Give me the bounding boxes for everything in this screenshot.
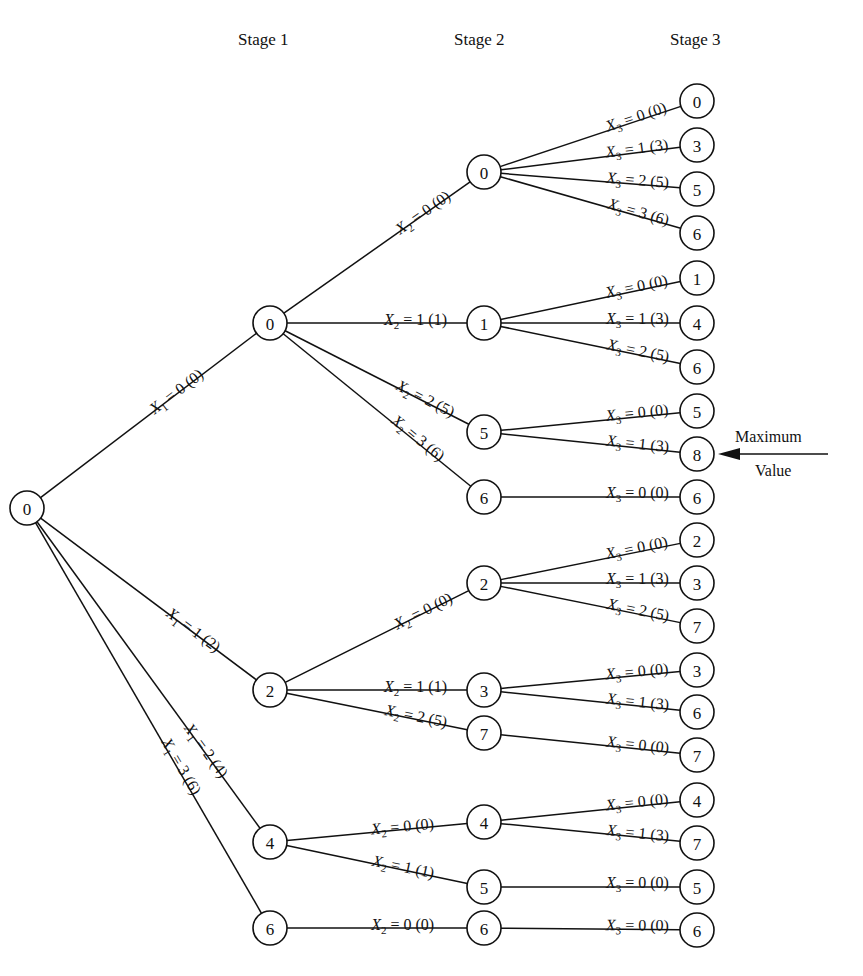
edge-label: X3 = 1 (3) (605, 310, 669, 330)
svg-text:X3 = 1 (3): X3 = 1 (3) (604, 432, 670, 458)
svg-text:X3 = 0 (0): X3 = 0 (0) (605, 874, 669, 894)
svg-text:6: 6 (480, 920, 489, 939)
edge-label: X3 = 1 (3) (603, 136, 669, 164)
node-s2_0a: 0 (467, 155, 501, 189)
node-s2_2b: 2 (467, 566, 501, 600)
svg-text:2: 2 (693, 532, 702, 551)
edge-root-s1_2 (41, 518, 257, 680)
node-s1_6: 6 (253, 911, 287, 945)
svg-text:6: 6 (693, 359, 702, 378)
node-s3_3: 3 (680, 128, 714, 162)
edge-label: X3 = 3 (6) (604, 194, 671, 231)
svg-text:4: 4 (266, 834, 275, 853)
node-s2_5c: 5 (467, 870, 501, 904)
nodes-layer: 00246015623745603561465862373674756 (10, 84, 714, 947)
svg-text:7: 7 (693, 747, 702, 766)
node-s3_6d: 6 (680, 695, 714, 729)
edge-label: X3 = 0 (0) (605, 916, 669, 937)
svg-text:X2 = 0 (0): X2 = 0 (0) (391, 187, 455, 240)
svg-text:X2 = 0 (0): X2 = 0 (0) (370, 916, 434, 936)
svg-text:X3 = 2 (5): X3 = 2 (5) (604, 335, 671, 368)
edge-label: X2 = 1 (1) (383, 678, 447, 698)
node-s2_6d: 6 (467, 911, 501, 945)
svg-text:6: 6 (693, 704, 702, 723)
svg-text:X3 = 2 (5): X3 = 2 (5) (604, 595, 671, 627)
svg-text:7: 7 (693, 835, 702, 854)
svg-text:7: 7 (693, 618, 702, 637)
svg-text:X3 = 1 (3): X3 = 1 (3) (605, 310, 669, 330)
svg-text:5: 5 (693, 403, 702, 422)
svg-text:0: 0 (480, 164, 489, 183)
svg-text:X3 = 3 (6): X3 = 3 (6) (604, 194, 671, 231)
node-s2_4c: 4 (467, 805, 501, 839)
svg-text:X3 = 0 (0): X3 = 0 (0) (604, 401, 670, 427)
svg-text:5: 5 (480, 424, 489, 443)
svg-text:5: 5 (693, 181, 702, 200)
svg-text:6: 6 (266, 920, 275, 939)
node-s3_7: 7 (680, 609, 714, 643)
edge-label: X3 = 2 (5) (604, 335, 671, 368)
svg-text:X1 = 0 (0): X1 = 0 (0) (145, 365, 208, 420)
svg-text:X2 = 1 (1): X2 = 1 (1) (383, 311, 447, 331)
edge-label: X2 = 3 (6) (386, 411, 448, 467)
node-s2_7b: 7 (467, 716, 501, 750)
node-s3_6c: 6 (680, 480, 714, 514)
node-s3_3b: 3 (680, 566, 714, 600)
svg-text:X3 = 1 (3): X3 = 1 (3) (603, 136, 669, 164)
node-s1_2: 2 (253, 673, 287, 707)
edge-root-s1_4 (37, 522, 260, 829)
edge-label: X3 = 1 (3) (605, 570, 669, 590)
svg-text:X3 = 1 (3): X3 = 1 (3) (605, 570, 669, 590)
svg-text:X3 = 0 (0): X3 = 0 (0) (604, 660, 670, 686)
edge-label: X3 = 0 (0) (603, 271, 670, 304)
edge-root-s1_0 (41, 333, 257, 497)
svg-text:3: 3 (480, 682, 489, 701)
edge-root-s1_6 (36, 523, 262, 914)
node-s3_6b: 6 (680, 350, 714, 384)
node-s2_6a: 6 (467, 480, 501, 514)
svg-text:5: 5 (693, 879, 702, 898)
edge-label: X3 = 1 (3) (604, 432, 670, 458)
svg-text:X2 = 3 (6): X2 = 3 (6) (386, 411, 448, 467)
svg-text:4: 4 (480, 814, 489, 833)
edge-label: X2 = 2 (5) (382, 701, 449, 733)
svg-text:1: 1 (480, 315, 489, 334)
maximum-value-label-line2: Value (755, 462, 791, 480)
svg-text:X3 = 0 (0): X3 = 0 (0) (605, 916, 669, 937)
svg-text:2: 2 (480, 575, 489, 594)
node-root: 0 (10, 491, 44, 525)
svg-text:X3 = 0 (0): X3 = 0 (0) (603, 271, 670, 304)
svg-text:2: 2 (266, 682, 275, 701)
decision-tree-diagram: X1 = 0 (0)X1 = 1 (2)X1 = 2 (4)X1 = 3 (6)… (0, 0, 863, 976)
edge-label: X2 = 0 (0) (390, 589, 456, 635)
svg-text:X3 = 0 (0): X3 = 0 (0) (605, 484, 669, 504)
svg-text:X1 = 1 (2): X1 = 1 (2) (161, 603, 224, 657)
svg-text:0: 0 (266, 315, 275, 334)
node-s3_4b: 4 (680, 783, 714, 817)
svg-text:X2 = 1 (1): X2 = 1 (1) (369, 851, 436, 884)
svg-text:6: 6 (693, 922, 702, 941)
node-s3_0: 0 (680, 84, 714, 118)
maximum-value-arrow (718, 448, 828, 460)
svg-text:6: 6 (480, 489, 489, 508)
edge-label: X2 = 0 (0) (391, 187, 455, 240)
edge-label: X3 = 0 (0) (604, 660, 670, 686)
svg-text:X3 = 0 (0): X3 = 0 (0) (603, 533, 670, 565)
node-s3_5c: 5 (680, 870, 714, 904)
node-s3_5: 5 (680, 172, 714, 206)
svg-text:3: 3 (693, 662, 702, 681)
node-s2_1a: 1 (467, 306, 501, 340)
node-s3_3c: 3 (680, 653, 714, 687)
svg-text:0: 0 (23, 500, 32, 519)
svg-text:1: 1 (693, 270, 702, 289)
node-s1_0: 0 (253, 306, 287, 340)
node-s1_4: 4 (253, 825, 287, 859)
edge-label: X3 = 0 (0) (605, 484, 669, 504)
svg-text:3: 3 (693, 137, 702, 156)
node-s3_7c: 7 (680, 826, 714, 860)
svg-text:5: 5 (480, 879, 489, 898)
svg-text:X3 = 1 (3): X3 = 1 (3) (604, 821, 670, 847)
edge-label: X3 = 1 (3) (604, 690, 670, 716)
edge-label: X1 = 1 (2) (161, 603, 224, 657)
edge-label: X2 = 1 (1) (383, 311, 447, 331)
